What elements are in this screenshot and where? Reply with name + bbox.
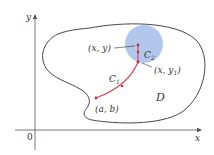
diagram-canvas: y x 0 (x, y) C2 (x, y1) C1 (a, b) D	[0, 0, 214, 155]
point-x-y1-label-close: )	[176, 65, 181, 75]
point-a-b	[95, 97, 98, 100]
point-x-y	[137, 44, 140, 47]
disk-c2-label-sub: 2	[150, 54, 155, 61]
leader-x-y1	[142, 63, 152, 67]
point-x-y1	[137, 61, 140, 64]
region-d-label: D	[155, 91, 165, 104]
curve-c1-label-sub: 1	[116, 78, 120, 85]
point-a-b-label: (a, b)	[95, 104, 119, 114]
x-axis-label: x	[195, 133, 200, 143]
point-mid-segment	[137, 51, 139, 53]
origin-label: 0	[27, 132, 33, 142]
point-x-y-label: (x, y)	[88, 43, 111, 53]
point-x-y1-label-main: (x, y	[154, 65, 174, 75]
curve-c1-label: C1	[109, 74, 120, 85]
y-axis-label: y	[25, 12, 32, 22]
point-x-y1-label: (x, y1)	[154, 65, 181, 76]
point-c1-mid	[121, 85, 124, 88]
